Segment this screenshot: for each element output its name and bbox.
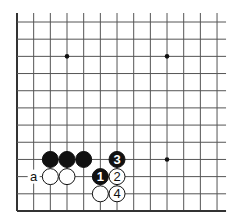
white-stone — [59, 169, 75, 185]
star-point — [165, 54, 170, 59]
black-stone-3: 3 — [109, 151, 125, 167]
move-number: 4 — [113, 186, 120, 201]
go-board-diagram: 3124 a — [0, 0, 241, 222]
move-number: 1 — [97, 169, 104, 184]
star-point — [65, 54, 70, 59]
black-stone — [59, 151, 75, 167]
marks: a — [28, 169, 40, 184]
black-stone — [76, 151, 92, 167]
black-stone-1: 1 — [92, 169, 108, 185]
black-stone — [42, 151, 58, 167]
white-stone-4: 4 — [109, 186, 125, 202]
move-number: 3 — [113, 152, 120, 167]
white-stone-2: 2 — [109, 169, 125, 185]
point-label-a: a — [30, 169, 38, 184]
white-stone — [92, 186, 108, 202]
move-number: 2 — [113, 169, 120, 184]
white-stone — [42, 169, 58, 185]
star-point — [165, 157, 170, 162]
